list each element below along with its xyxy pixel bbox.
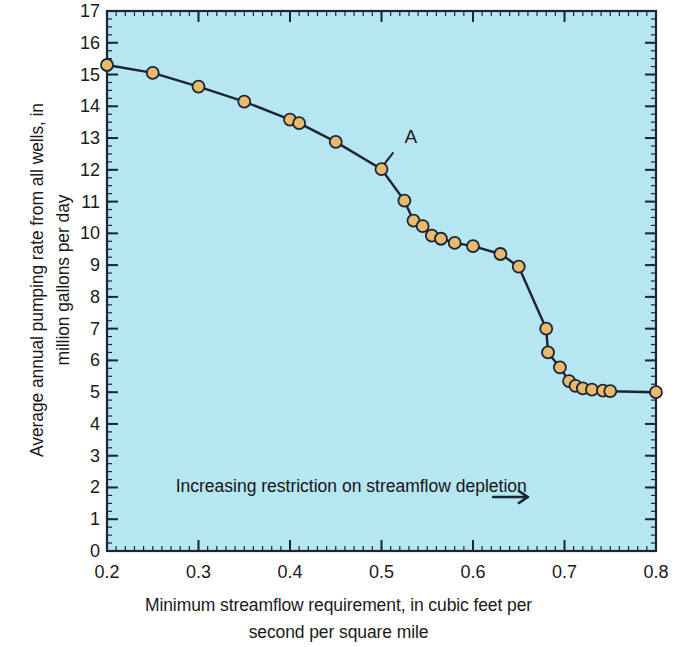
- curve-label-a: A: [404, 126, 417, 147]
- data-point-marker: [467, 240, 479, 252]
- direction-note: Increasing restriction on streamflow dep…: [176, 476, 527, 496]
- data-point-marker: [513, 261, 525, 273]
- data-point-marker: [101, 59, 113, 71]
- data-point-marker: [147, 67, 159, 79]
- data-point-marker: [417, 220, 429, 232]
- data-point-marker: [330, 136, 342, 148]
- plot-canvas: AIncreasing restriction on streamflow de…: [0, 0, 677, 647]
- data-point-marker: [398, 195, 410, 207]
- data-point-marker: [435, 233, 447, 245]
- data-point-marker: [494, 248, 506, 260]
- data-point-marker: [449, 237, 461, 249]
- data-point-marker: [554, 361, 566, 373]
- data-point-marker: [542, 346, 554, 358]
- data-point-marker: [293, 117, 305, 129]
- data-point-marker: [376, 163, 388, 175]
- data-point-marker: [604, 385, 616, 397]
- chart-figure: Average annual pumping rate from all wel…: [0, 0, 677, 647]
- data-point-marker: [540, 323, 552, 335]
- data-point-marker: [193, 81, 205, 93]
- plot-background: [107, 11, 656, 551]
- data-point-marker: [650, 386, 662, 398]
- data-point-marker: [238, 96, 250, 108]
